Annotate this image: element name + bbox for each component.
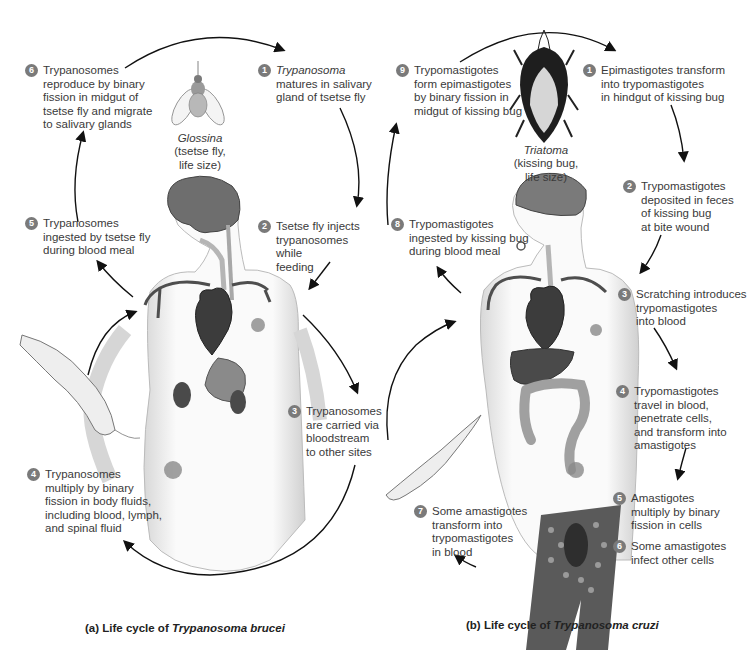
step-number-badge: 7 [414, 505, 427, 518]
step-italic-lead: Trypanosoma [276, 64, 345, 76]
step-number-badge: 3 [288, 405, 301, 418]
step-number-badge: 2 [258, 220, 271, 233]
step-number-badge: 8 [391, 218, 404, 231]
step-number-badge: 6 [613, 540, 626, 553]
caption-prefix: (b) Life cycle of [466, 619, 554, 631]
step-number-badge: 2 [623, 180, 636, 193]
kidney-right [230, 390, 246, 414]
step-text: Trypanosomes reproduce by binary fission… [43, 64, 155, 132]
vector-label-glossina: Glossina(tsetse fly, life size) [165, 118, 235, 172]
step-text: Trypomastigotes travel in blood, penetra… [634, 385, 751, 453]
vector-description: (kissing bug, life size) [514, 157, 579, 183]
step-7: 7 Some amastigotes transform into trypom… [414, 505, 544, 559]
caption-panel-b: (b) Life cycle of Trypanosoma cruzi [466, 619, 659, 631]
step-text: Some amastigotes transform into trypomas… [432, 505, 544, 559]
step-3: 3 Trypanosomes are carried via bloodstre… [288, 405, 383, 459]
step-text: Epimastigotes transform into trypomastig… [601, 64, 743, 105]
step-number-badge: 5 [613, 492, 626, 505]
step-9: 9 Trypomastigotes form epimastigotes by … [396, 64, 531, 118]
panel-trypanosoma-brucei: Glossina(tsetse fly, life size) 1 Trypan… [0, 0, 376, 659]
vector-label-triatoma: Triatoma(kissing bug, life size) [506, 130, 586, 184]
vector-genus: Glossina [165, 132, 235, 146]
step-number-badge: 4 [616, 385, 629, 398]
step-text: Trypanosomes ingested by tsetse fly duri… [43, 217, 155, 258]
step-text: Tsetse fly injects trypanosomes while fe… [276, 220, 376, 274]
trypomastigote-drawing [386, 415, 481, 500]
step-text: Trypomastigotes form epimastigotes by bi… [414, 64, 531, 118]
vector-description: (tsetse fly, life size) [174, 145, 226, 171]
step-5: 5 Trypanosomes ingested by tsetse fly du… [25, 217, 155, 258]
step-text: Trypomastigotes ingested by kissing bug … [409, 218, 536, 259]
step-1: 1 Trypanosoma matures in salivary gland … [258, 64, 376, 105]
step-number-badge: 5 [25, 217, 38, 230]
step-text: Trypanosomes are carried via bloodstream… [306, 405, 383, 459]
panel-trypanosoma-cruzi: Triatoma(kissing bug, life size) 1 Epima… [376, 0, 753, 659]
step-2: 2 Trypomastigotes deposited in feces of … [623, 180, 748, 234]
step-6: 6 Some amastigotes infect other cells [613, 540, 748, 567]
vector-genus: Triatoma [506, 144, 586, 158]
step-5: 5 Amastigotes multiply by binary fission… [613, 492, 748, 533]
caption-species: Trypanosoma cruzi [554, 619, 659, 631]
step-number-badge: 9 [396, 64, 409, 77]
step-number-badge: 4 [27, 468, 40, 481]
step-4: 4 Trypanosomes multiply by binary fissio… [27, 468, 167, 536]
step-6: 6 Trypanosomes reproduce by binary fissi… [25, 64, 155, 132]
kidney-left [173, 382, 191, 408]
step-text: Trypomastigotes deposited in feces of ki… [641, 180, 748, 234]
step-number-badge: 3 [618, 288, 631, 301]
step-text: Amastigotes multiply by binary fission i… [631, 492, 748, 533]
step-text: Scratching introduces trypomastigotes in… [636, 288, 753, 329]
step-3: 3 Scratching introduces trypomastigotes … [618, 288, 753, 329]
caption-panel-a: (a) Life cycle of Trypanosoma brucei [85, 622, 285, 634]
step-number-badge: 6 [25, 64, 38, 77]
step-text: Trypanosomes multiply by binary fission … [45, 468, 167, 536]
caption-species: Trypanosoma brucei [172, 622, 285, 634]
caption-prefix: (a) Life cycle of [85, 622, 172, 634]
step-text: Some amastigotes infect other cells [631, 540, 748, 567]
step-2: 2 Tsetse fly injects trypanosomes while … [258, 220, 376, 274]
step-8: 8 Trypomastigotes ingested by kissing bu… [391, 218, 536, 259]
step-number-badge: 1 [258, 64, 271, 77]
step-4: 4 Trypomastigotes travel in blood, penet… [616, 385, 751, 453]
step-number-badge: 1 [583, 64, 596, 77]
step-text: matures in salivary gland of tsetse fly [276, 78, 372, 104]
step-1: 1 Epimastigotes transform into trypomast… [583, 64, 743, 105]
